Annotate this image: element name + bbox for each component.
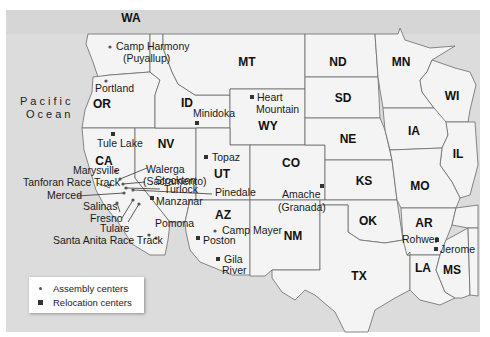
assembly-center-label: Turlock	[164, 183, 199, 195]
state-label-la: LA	[415, 261, 431, 275]
assembly-center-label: Salinas	[83, 200, 117, 212]
legend-label-assembly: Assembly centers	[53, 283, 128, 294]
state-label-mn: MN	[392, 55, 411, 69]
relocation-center-label: Amache	[282, 188, 321, 200]
relocation-center-label: Tule Lake	[97, 137, 143, 149]
state-label-az: AZ	[215, 208, 231, 222]
assembly-center-dot-icon	[131, 198, 134, 201]
state-label-tx: TX	[351, 269, 366, 283]
relocation-center-label: Topaz	[212, 151, 240, 163]
assembly-center-label: Pomona	[155, 217, 194, 229]
assembly-center-label: Tulare	[100, 222, 130, 234]
assembly-center-label: (Puyallup)	[123, 52, 170, 64]
relocation-center-square-icon	[111, 132, 115, 136]
state-label-co: CO	[282, 156, 300, 170]
state-label-wa: WA	[121, 11, 141, 25]
state-label-nv: NV	[158, 137, 175, 151]
dot-icon	[39, 287, 42, 290]
assembly-center-label: Tanforan Race Track	[23, 176, 121, 188]
relocation-center-label: Jerome	[440, 243, 475, 255]
relocation-center-square-icon	[434, 247, 438, 251]
relocation-center-square-icon	[195, 121, 199, 125]
state-label-mt: MT	[238, 55, 256, 69]
relocation-center-label: (Granada)	[278, 201, 326, 213]
relocation-center-label: Heart	[257, 91, 283, 103]
relocation-center-label: Manzanar	[156, 195, 203, 207]
relocation-center-label: Rohwer	[402, 233, 439, 245]
relocation-center-label: River	[222, 264, 247, 276]
assembly-center-dot-icon	[131, 188, 134, 191]
state-label-sd: SD	[335, 91, 352, 105]
relocation-center-square-icon	[250, 95, 254, 99]
state-label-id: ID	[181, 96, 193, 110]
state-label-or: OR	[93, 97, 111, 111]
assembly-center-label: Portland	[95, 82, 134, 94]
state-label-ms: MS	[443, 263, 461, 277]
state-label-ne: NE	[340, 132, 357, 146]
assembly-center-label: Camp Harmony	[116, 40, 190, 52]
state-label-ar: AR	[415, 216, 433, 230]
assembly-center-dot-icon	[122, 191, 125, 194]
assembly-center-label: Pinedale	[215, 186, 256, 198]
relocation-center-square-icon	[216, 257, 220, 261]
legend-item-relocation: Relocation centers	[37, 297, 132, 308]
state-label-ok: OK	[359, 214, 377, 228]
relocation-center-label: Minidoka	[193, 107, 235, 119]
state-label-wi: WI	[445, 89, 460, 103]
assembly-center-label: Marysville	[73, 164, 120, 176]
assembly-center-dot-icon	[137, 202, 140, 205]
assembly-center-dot-icon	[213, 229, 216, 232]
state-label-nd: ND	[329, 55, 347, 69]
state-east-edge	[452, 205, 478, 228]
state-label-ia: IA	[408, 124, 420, 138]
relocation-center-square-icon	[150, 196, 154, 200]
relocation-center-label: Mountain	[256, 103, 299, 115]
legend-label-relocation: Relocation centers	[53, 297, 132, 308]
ocean-label-line2: Ocean	[26, 108, 73, 120]
assembly-center-dot-icon	[108, 45, 111, 48]
ocean-label-line1: Pacific	[20, 95, 73, 107]
state-label-il: IL	[453, 147, 464, 161]
assembly-center-label: Santa Anita Race Track	[53, 234, 163, 246]
state-label-wy: WY	[258, 119, 277, 133]
assembly-center-dot-icon	[124, 186, 127, 189]
state-label-mo: MO	[410, 179, 429, 193]
state-al-edge	[468, 228, 478, 296]
state-label-ut: UT	[214, 167, 231, 181]
map-legend: Assembly centers Relocation centers	[29, 277, 144, 313]
relocation-center-square-icon	[196, 236, 200, 240]
state-label-nm: NM	[284, 229, 303, 243]
state-label-ks: KS	[356, 174, 373, 188]
square-icon	[38, 300, 43, 305]
relocation-center-label: Poston	[203, 234, 236, 246]
relocation-center-square-icon	[204, 155, 208, 159]
relocation-center-square-icon	[320, 184, 324, 188]
assembly-center-dot-icon	[121, 182, 124, 185]
assembly-center-label: Merced	[47, 189, 82, 201]
legend-item-assembly: Assembly centers	[37, 283, 128, 294]
